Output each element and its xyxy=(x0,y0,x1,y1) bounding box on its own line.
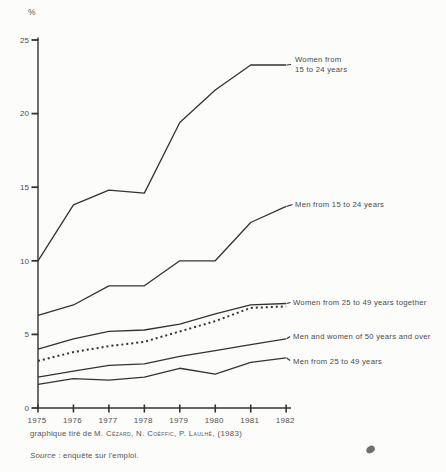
label-leader-men-women-50-and-over xyxy=(287,337,290,339)
series-line-women-25-49-dashed xyxy=(38,306,286,360)
series-line-men-women-50-and-over xyxy=(38,339,286,377)
label-leader-men-25-49 xyxy=(287,358,290,361)
source-word: Source xyxy=(30,451,56,460)
label-leader-women-25-49-solid xyxy=(287,303,291,304)
x-tick-label: 1977 xyxy=(98,416,117,425)
caption-authors: M. Cézard, N. Coëffic, P. Laulhé, (1983) xyxy=(94,429,242,438)
x-tick-label: 1982 xyxy=(276,416,295,425)
series-label-women-15-24: Women from 15 to 24 years xyxy=(295,55,347,74)
series-label-line: Women from xyxy=(295,55,341,64)
label-leader-men-15-24 xyxy=(287,205,293,207)
y-tick-label: 0 xyxy=(25,404,30,413)
series-label-women-25-49: Women from 25 to 49 years together xyxy=(293,298,427,308)
series-line-women-25-49-solid xyxy=(38,303,286,349)
chart-canvas: 0510152025197519761977197819791980198119… xyxy=(0,0,446,472)
label-leader-women-15-24 xyxy=(287,65,291,66)
y-tick-label: 5 xyxy=(25,330,30,339)
y-axis-unit-label: % xyxy=(28,7,36,17)
x-tick-label: 1975 xyxy=(28,416,47,425)
source-note: Source : enquête sur l'emploi. xyxy=(30,451,139,460)
y-tick-label: 25 xyxy=(20,36,29,45)
caption-prefix: graphique tiré de xyxy=(30,429,92,438)
source-text: : enquête sur l'emploi. xyxy=(56,451,139,460)
series-label-men-25-49: Men from 25 to 49 years xyxy=(293,357,382,367)
series-label-line: 15 to 24 years xyxy=(295,65,347,74)
series-label-men-women-50-over: Men and women of 50 years and over xyxy=(293,332,431,342)
y-tick-label: 10 xyxy=(20,257,29,266)
series-line-men-15-24 xyxy=(38,206,286,315)
series-label-men-15-24: Men from 15 to 24 years xyxy=(295,200,384,210)
x-tick-label: 1978 xyxy=(134,416,153,425)
x-tick-label: 1980 xyxy=(205,416,224,425)
x-tick-label: 1981 xyxy=(240,416,259,425)
y-tick-label: 15 xyxy=(20,183,29,192)
series-line-women-15-24 xyxy=(38,65,286,261)
x-tick-label: 1976 xyxy=(63,416,82,425)
x-tick-label: 1979 xyxy=(169,416,188,425)
chart-caption: graphique tiré deM. Cézard, N. Coëffic, … xyxy=(30,429,242,438)
line-chart: 0510152025197519761977197819791980198119… xyxy=(0,0,446,472)
y-tick-label: 20 xyxy=(20,109,29,118)
